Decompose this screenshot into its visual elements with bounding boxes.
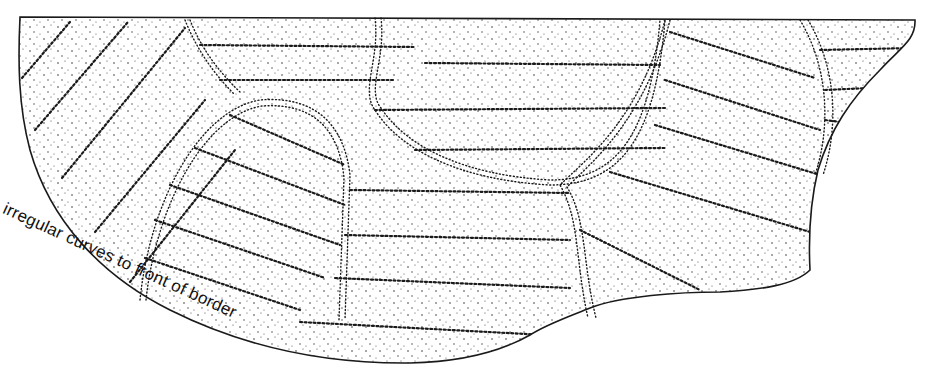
- fan-border-drawing: [0, 0, 927, 382]
